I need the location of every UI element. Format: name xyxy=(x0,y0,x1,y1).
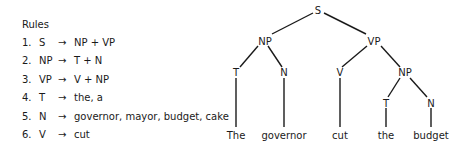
node-t: T xyxy=(232,67,240,78)
node-s: S xyxy=(315,5,321,16)
edge-np-n xyxy=(268,46,282,67)
leaf-the: The xyxy=(226,130,246,141)
node-vp: VP xyxy=(368,36,381,47)
tree-nodes: S NP VP T N V NP T N xyxy=(232,5,435,109)
node-n: N xyxy=(280,67,287,78)
edge-vp-np xyxy=(381,46,400,67)
edge-vp-v xyxy=(342,46,367,67)
leaf-governor: governor xyxy=(261,130,307,141)
tree-leaves: The governor cut the budget xyxy=(226,130,449,141)
node-n-object: N xyxy=(427,98,434,109)
edge-np2-n xyxy=(410,78,427,97)
edge-s-np xyxy=(272,13,313,34)
leaf-budget: budget xyxy=(413,130,449,141)
edge-np-t xyxy=(240,46,258,67)
node-np-object: NP xyxy=(398,67,412,78)
leaf-the-object: the xyxy=(378,130,394,141)
edge-np2-t xyxy=(388,78,400,97)
edge-s-vp xyxy=(324,13,366,34)
leaf-cut: cut xyxy=(332,130,348,141)
node-np: NP xyxy=(258,36,272,47)
node-v: V xyxy=(337,67,344,78)
node-t-object: T xyxy=(382,98,390,109)
parse-tree: S NP VP T N V NP T N The governor cut th… xyxy=(0,0,464,148)
